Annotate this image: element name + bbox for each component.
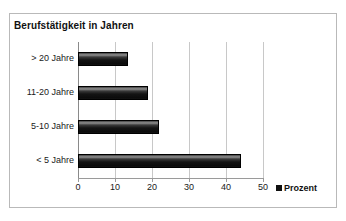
bar-4 bbox=[78, 154, 241, 168]
chart-figure: Berufstätigkeit in Jahren > 20 Jahre11-2… bbox=[0, 0, 346, 221]
category-label: 5-10 Jahre bbox=[8, 121, 74, 131]
bar-2 bbox=[78, 86, 148, 100]
bar-1 bbox=[78, 52, 128, 66]
bar-row bbox=[78, 154, 263, 168]
x-axis-tick-labels: 01020304050 bbox=[78, 182, 264, 196]
bar-row bbox=[78, 120, 263, 134]
category-label: < 5 Jahre bbox=[8, 155, 74, 165]
legend-label-prozent: Prozent bbox=[284, 183, 317, 193]
chart-legend: Prozent bbox=[276, 183, 317, 193]
bar-row bbox=[78, 86, 263, 100]
tick-label-20: 20 bbox=[147, 182, 157, 192]
plot-area bbox=[78, 42, 263, 178]
category-axis-labels: > 20 Jahre11-20 Jahre5-10 Jahre< 5 Jahre bbox=[4, 42, 74, 178]
category-label: 11-20 Jahre bbox=[8, 87, 74, 97]
tick-label-10: 10 bbox=[110, 182, 120, 192]
gridline-50 bbox=[263, 42, 264, 178]
legend-swatch-prozent bbox=[276, 185, 282, 191]
tick-label-30: 30 bbox=[184, 182, 194, 192]
chart-title: Berufstätigkeit in Jahren bbox=[14, 20, 134, 31]
tick-label-40: 40 bbox=[221, 182, 231, 192]
category-label: > 20 Jahre bbox=[8, 53, 74, 63]
tick-label-0: 0 bbox=[75, 182, 80, 192]
bar-row bbox=[78, 52, 263, 66]
tick-label-50: 50 bbox=[258, 182, 268, 192]
bar-3 bbox=[78, 120, 159, 134]
